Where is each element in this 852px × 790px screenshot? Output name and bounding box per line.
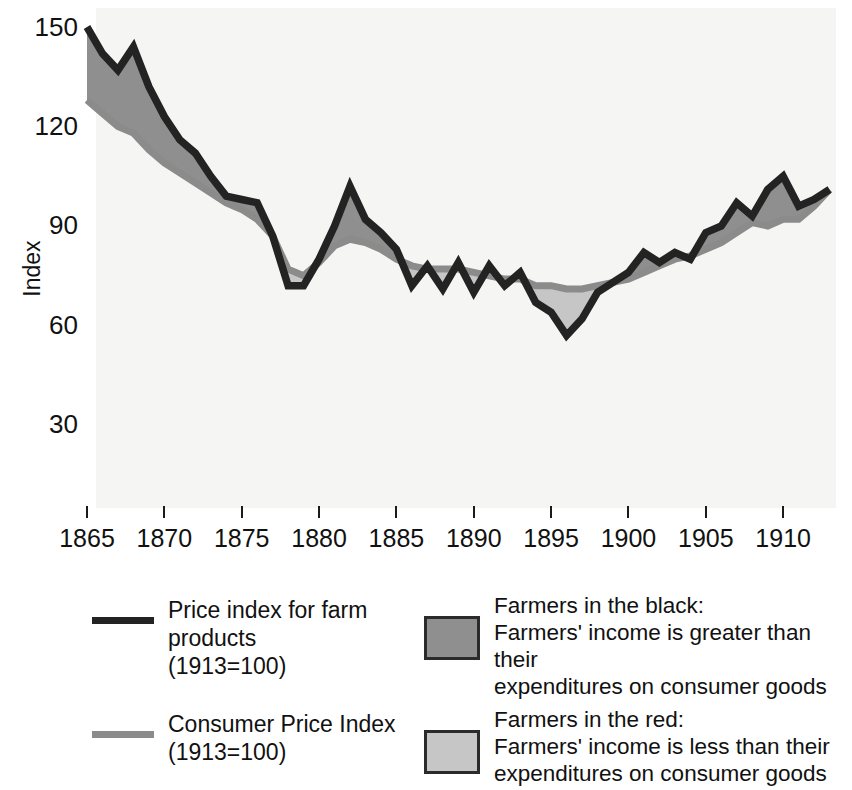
x-tick-mark-1910 [782, 506, 784, 518]
x-tick-label-1905: 1905 [666, 524, 746, 553]
legend-item-farm-price-index: Price index for farm products (1913=100) [92, 596, 452, 680]
x-tick-label-1880: 1880 [279, 524, 359, 553]
legend-lines-column: Price index for farm products (1913=100)… [92, 596, 452, 790]
x-tick-label-1890: 1890 [434, 524, 514, 553]
legend-swatch-farm-line [92, 617, 154, 624]
legend-swatch-band-red [424, 730, 480, 774]
y-axis-title: Index [19, 209, 46, 329]
x-tick-label-1900: 1900 [588, 524, 668, 553]
legend-desc-red-line1: Farmers' income is less than their [494, 733, 830, 760]
x-tick-label-1865: 1865 [47, 524, 127, 553]
chart-legend: Price index for farm products (1913=100)… [0, 596, 852, 758]
legend-label-farmers-in-the-black: Farmers in the black: Farmers' income is… [494, 592, 852, 700]
legend-label-cpi-line2: (1913=100) [168, 738, 396, 766]
x-tick-mark-1880 [318, 506, 320, 518]
legend-label-cpi-line1: Consumer Price Index [168, 710, 396, 738]
x-tick-mark-1905 [705, 506, 707, 518]
band-black-segment-0 [87, 27, 273, 236]
legend-swatch-band-black [424, 616, 480, 660]
plot-area: 150 120 90 60 30 Index 18651870187518801… [0, 0, 852, 540]
legend-heading-farmers-in-the-black: Farmers in the black: [494, 592, 852, 619]
legend-label-farm-price-index-line2: (1913=100) [168, 652, 452, 680]
x-tick-mark-1865 [86, 506, 88, 518]
legend-item-farmers-in-the-black: Farmers in the black: Farmers' income is… [424, 592, 852, 700]
x-tick-mark-1885 [395, 506, 397, 518]
chart-svg [0, 0, 852, 540]
legend-item-farmers-in-the-red: Farmers in the red: Farmers' income is l… [424, 706, 852, 787]
legend-bands-column: Farmers in the black: Farmers' income is… [424, 592, 852, 790]
legend-label-farm-price-index: Price index for farm products (1913=100) [168, 596, 452, 680]
legend-item-consumer-price-index: Consumer Price Index (1913=100) [92, 710, 452, 766]
band-farmers-in-the-red [273, 236, 693, 336]
x-tick-mark-1895 [550, 506, 552, 518]
legend-desc-black-line2: expenditures on consumer goods [494, 673, 852, 700]
x-tick-label-1895: 1895 [511, 524, 591, 553]
y-tick-label-120: 120 [18, 113, 78, 139]
y-tick-label-150: 150 [18, 14, 78, 40]
legend-desc-black-line1: Farmers' income is greater than their [494, 619, 852, 673]
legend-swatch-cpi-line [92, 731, 154, 738]
x-tick-mark-1900 [627, 506, 629, 518]
legend-desc-red-line2: expenditures on consumer goods [494, 760, 830, 787]
legend-label-farm-price-index-line1: Price index for farm products [168, 596, 452, 652]
x-tick-mark-1870 [163, 506, 165, 518]
x-tick-label-1875: 1875 [202, 524, 282, 553]
x-tick-mark-1875 [241, 506, 243, 518]
legend-heading-farmers-in-the-red: Farmers in the red: [494, 706, 830, 733]
x-tick-label-1870: 1870 [124, 524, 204, 553]
x-tick-label-1885: 1885 [356, 524, 436, 553]
legend-label-consumer-price-index: Consumer Price Index (1913=100) [168, 710, 396, 766]
y-tick-label-30: 30 [18, 411, 78, 437]
x-tick-mark-1890 [473, 506, 475, 518]
legend-label-farmers-in-the-red: Farmers in the red: Farmers' income is l… [494, 706, 830, 787]
x-tick-label-1910: 1910 [743, 524, 823, 553]
